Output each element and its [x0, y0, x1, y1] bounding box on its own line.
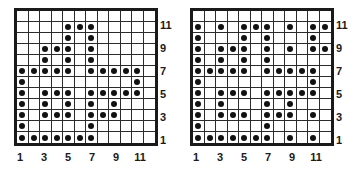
data-point-dot — [42, 57, 48, 63]
grid-cell — [320, 77, 332, 88]
grid-cell — [297, 88, 309, 99]
grid-cell — [205, 66, 217, 77]
grid-cell — [63, 121, 75, 132]
grid-cell — [228, 22, 240, 33]
grid-cell — [29, 55, 41, 66]
y-tick-label: 7 — [336, 65, 342, 77]
grid-cell — [109, 77, 121, 88]
grid-cell — [228, 132, 240, 143]
grid-cell — [193, 44, 205, 55]
grid-cell — [40, 11, 52, 22]
grid-cell — [75, 66, 87, 77]
grid-cell — [297, 55, 309, 66]
data-point-dot — [19, 90, 25, 96]
data-point-dot — [19, 79, 25, 85]
data-point-dot — [310, 68, 316, 74]
grid-cell — [274, 55, 286, 66]
grid-cell — [251, 132, 263, 143]
grid-cell — [121, 77, 133, 88]
data-point-dot — [88, 112, 94, 118]
data-point-dot — [123, 90, 129, 96]
grid-cell — [63, 22, 75, 33]
grid-cell — [75, 55, 87, 66]
grid-cell — [205, 44, 217, 55]
grid-cell — [251, 55, 263, 66]
data-point-dot — [253, 24, 259, 30]
grid-cell — [17, 132, 29, 143]
grid-cell — [320, 110, 332, 121]
grid-cell — [285, 22, 297, 33]
grid-cell — [274, 121, 286, 132]
grid-cell — [75, 33, 87, 44]
y-tick-label: 5 — [160, 88, 166, 100]
y-tick-label: 1 — [160, 134, 166, 146]
y-tick-label: 3 — [160, 111, 166, 123]
data-point-dot — [218, 101, 224, 107]
grid-cell — [262, 88, 274, 99]
data-point-dot — [264, 35, 270, 41]
data-point-dot — [287, 135, 293, 141]
grid-cell — [239, 99, 251, 110]
grid-cell — [320, 55, 332, 66]
x-tick-label: 7 — [89, 150, 95, 164]
grid-cell — [75, 99, 87, 110]
grid-cell — [132, 132, 144, 143]
grid-cell — [216, 88, 228, 99]
data-point-dot — [88, 57, 94, 63]
grid-cell — [17, 66, 29, 77]
grid-cell — [216, 110, 228, 121]
grid-cell — [297, 110, 309, 121]
y-tick-label: 11 — [336, 19, 348, 31]
grid-cell — [144, 11, 156, 22]
grid-cell — [86, 99, 98, 110]
data-point-dot — [310, 46, 316, 52]
data-point-dot — [88, 35, 94, 41]
grid-right-y-axis: 1357911 — [336, 8, 354, 146]
grid-cell — [144, 33, 156, 44]
grid-cell — [17, 99, 29, 110]
grid-cell — [86, 11, 98, 22]
grid-cell — [285, 99, 297, 110]
data-point-dot — [264, 90, 270, 96]
grid-left-y-axis: 1357911 — [160, 8, 178, 146]
data-point-dot — [310, 112, 316, 118]
data-point-dot — [310, 24, 316, 30]
grid-cell — [98, 77, 110, 88]
data-point-dot — [88, 24, 94, 30]
grid-cell — [132, 33, 144, 44]
x-tick-label: 1 — [17, 150, 23, 164]
grid-cell — [251, 77, 263, 88]
data-point-dot — [77, 135, 83, 141]
data-point-dot — [218, 90, 224, 96]
grid-cell — [109, 88, 121, 99]
x-tick-label: 11 — [134, 150, 146, 164]
grid-cell — [63, 77, 75, 88]
y-tick-label: 7 — [160, 65, 166, 77]
grid-cell — [52, 121, 64, 132]
grid-cell — [40, 44, 52, 55]
grid-cell — [205, 88, 217, 99]
grid-cell — [205, 110, 217, 121]
data-point-dot — [195, 135, 201, 141]
data-point-dot — [134, 68, 140, 74]
grid-cell — [29, 66, 41, 77]
grid-cell — [121, 33, 133, 44]
grid-cell — [86, 22, 98, 33]
x-tick-label: 5 — [65, 150, 71, 164]
grid-cell — [121, 66, 133, 77]
grid-cell — [308, 11, 320, 22]
data-point-dot — [88, 68, 94, 74]
grid-cell — [262, 132, 274, 143]
data-point-dot — [111, 90, 117, 96]
grid-cell — [132, 88, 144, 99]
grid-cell — [216, 55, 228, 66]
grid-cell — [297, 22, 309, 33]
grid-cell — [308, 55, 320, 66]
grid-cell — [251, 33, 263, 44]
grid-cell — [109, 132, 121, 143]
grid-cell — [52, 66, 64, 77]
grid-cell — [52, 44, 64, 55]
grid-cell — [193, 110, 205, 121]
grid-cell — [274, 66, 286, 77]
data-point-dot — [218, 24, 224, 30]
